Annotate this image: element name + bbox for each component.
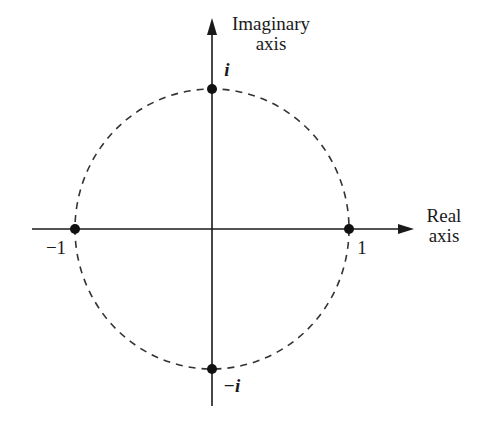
label-i: i [220,60,234,80]
imaginary-axis-label-line2: axis [226,34,316,54]
label-one: 1 [355,238,369,258]
point-minus-i [207,364,217,374]
label-minus-i: −i [219,376,245,396]
point-minus-one [70,224,80,234]
imaginary-axis-arrow-icon [207,18,217,35]
imaginary-axis-label: Imaginary axis [226,14,316,54]
point-one [344,224,354,234]
real-axis-label-line2: axis [418,226,470,246]
imaginary-axis-label-line1: Imaginary [226,14,316,34]
real-axis-label-line1: Real [418,206,470,226]
complex-plane-diagram [0,0,487,425]
point-i [207,84,217,94]
label-minus-one: −1 [40,238,72,258]
real-axis-label: Real axis [418,206,470,246]
real-axis-arrow-icon [398,224,414,234]
